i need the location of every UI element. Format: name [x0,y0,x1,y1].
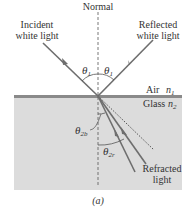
incident-label-line1: Incident [21,19,54,30]
refracted-label-line2: light [153,174,172,185]
air-label: Air [146,84,160,95]
refracted-label-line1: Refracted [143,163,182,174]
glass-label: Glass [143,98,165,109]
incident-arrowhead [62,58,68,65]
normal-label: Normal [83,1,114,12]
reflected-label-line1: Reflected [139,19,177,30]
incident-label-line2: white light [15,30,58,41]
figure-caption: (a) [92,195,104,207]
theta1-incident-label: θ1 [82,64,91,78]
refraction-diagram: Normal Incident white light Reflected wh… [0,0,194,211]
theta1-reflected-label: θ1 [104,64,113,78]
reflected-label-line2: white light [136,30,179,41]
